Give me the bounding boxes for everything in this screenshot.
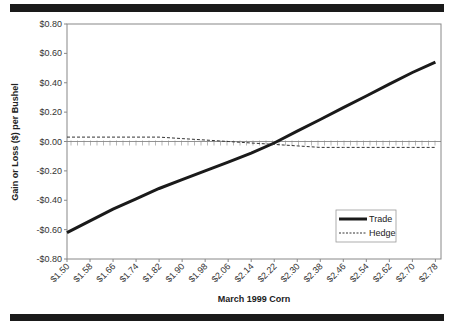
y-tick-label: -$0.20 — [36, 166, 62, 176]
x-tick-label: $2.38 — [302, 261, 325, 284]
legend-trade-label: Trade — [369, 214, 392, 224]
x-tick-label: $1.58 — [71, 261, 94, 284]
series-lines — [67, 62, 441, 232]
y-axis-label: Gain or Loss ($) per Bushel — [10, 83, 20, 201]
y-tick-label: $0.40 — [39, 78, 62, 88]
y-axis: $0.80$0.60$0.40$0.20$0.00-$0.20-$0.40-$0… — [36, 19, 67, 264]
x-axis: $1.50$1.58$1.66$1.74$1.82$1.90$1.98$2.06… — [48, 259, 439, 284]
legend-hedge-label: Hedge — [369, 228, 396, 238]
y-tick-label: $0.60 — [39, 48, 62, 58]
x-tick-label: $2.46 — [325, 261, 348, 284]
x-tick-label: $2.70 — [394, 261, 417, 284]
y-tick-label: -$0.80 — [36, 254, 62, 264]
trade-line — [67, 62, 435, 232]
x-tick-label: $2.14 — [233, 261, 256, 284]
x-axis-label: March 1999 Corn — [218, 294, 291, 304]
x-tick-label: $1.74 — [117, 261, 140, 284]
x-tick-label: $2.22 — [256, 261, 279, 284]
y-tick-label: -$0.60 — [36, 225, 62, 235]
x-tick-label: $2.78 — [417, 261, 440, 284]
x-tick-label: $1.66 — [94, 261, 117, 284]
y-tick-label: $0.00 — [39, 137, 62, 147]
line-chart: $0.80$0.60$0.40$0.20$0.00-$0.20-$0.40-$0… — [0, 0, 454, 326]
x-tick-label: $2.30 — [279, 261, 302, 284]
y-tick-label: $0.20 — [39, 107, 62, 117]
y-tick-label: -$0.40 — [36, 195, 62, 205]
x-tick-label: $1.98 — [187, 261, 210, 284]
y-tick-label: $0.80 — [39, 19, 62, 29]
x-tick-label: $1.50 — [48, 261, 71, 284]
x-tick-label: $2.62 — [371, 261, 394, 284]
x-tick-label: $1.82 — [141, 261, 164, 284]
x-tick-label: $1.90 — [164, 261, 187, 284]
hedge-line — [67, 137, 435, 147]
x-tick-label: $2.54 — [348, 261, 371, 284]
legend: Trade Hedge — [336, 210, 396, 242]
x-tick-label: $2.06 — [210, 261, 233, 284]
